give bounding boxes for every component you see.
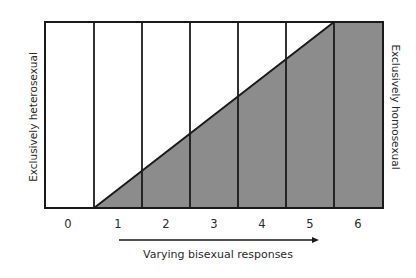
scale-number-2: 2 — [162, 217, 169, 231]
scale-number-0: 0 — [64, 217, 71, 231]
axis-caption: Varying bisexual responses — [143, 248, 293, 261]
scale-number-5: 5 — [306, 217, 313, 231]
right-label: Exclusively homosexual — [390, 44, 402, 169]
left-label: Exclusively heterosexual — [27, 52, 39, 182]
scale-number-6: 6 — [354, 217, 361, 231]
kinsey-scale-diagram: 0 1 2 3 4 5 6 Varying bisexual responses… — [0, 0, 416, 278]
scale-number-3: 3 — [210, 217, 217, 231]
arrow-head-icon — [312, 237, 319, 243]
scale-number-1: 1 — [114, 217, 121, 231]
scale-number-4: 4 — [258, 217, 265, 231]
